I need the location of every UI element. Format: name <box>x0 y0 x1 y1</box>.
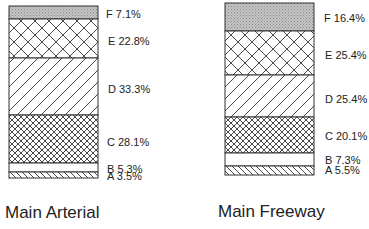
bar-main-arterial <box>9 6 98 178</box>
label-arterial-d: D 33.3% <box>108 84 150 95</box>
segment-e <box>9 19 98 58</box>
label-freeway-c: C 20.1% <box>325 131 367 142</box>
segment-c <box>9 115 98 163</box>
bar-main-freeway <box>225 3 314 175</box>
label-freeway-e: E 25.4% <box>325 50 367 61</box>
bar-title-main-arterial: Main Arterial <box>5 204 99 222</box>
segment-c <box>225 117 314 153</box>
label-arterial-e: E 22.8% <box>108 36 150 47</box>
bar-title-main-freeway: Main Freeway <box>218 203 325 221</box>
segment-d <box>9 58 98 115</box>
segment-b <box>225 153 314 166</box>
segment-a <box>9 172 98 178</box>
segment-f <box>225 3 314 31</box>
segment-b <box>9 163 98 172</box>
label-arterial-f: F 7.1% <box>106 9 141 20</box>
label-freeway-d: D 25.4% <box>325 94 367 105</box>
label-arterial-a: A 3.5% <box>107 171 142 182</box>
label-arterial-c: C 28.1% <box>107 137 149 148</box>
segment-d <box>225 75 314 117</box>
segment-f <box>9 6 98 19</box>
stacked-bar-chart <box>0 0 369 229</box>
label-freeway-a: A 5.5% <box>325 165 360 176</box>
label-freeway-f: F 16.4% <box>324 13 365 24</box>
segment-e <box>225 31 314 75</box>
segment-a <box>225 166 314 175</box>
